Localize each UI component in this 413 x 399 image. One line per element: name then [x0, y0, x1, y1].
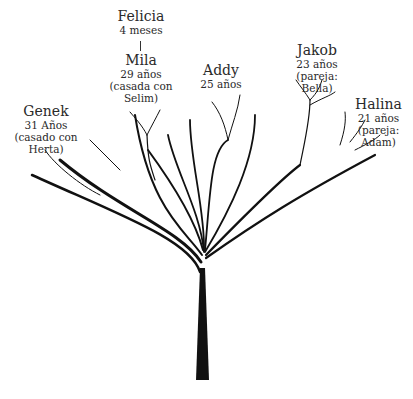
member-felicia: Felicia 4 meses [105, 8, 177, 36]
member-name: Mila [95, 52, 187, 68]
member-age: 23 años [282, 58, 352, 70]
member-addy: Addy 25 años [196, 62, 246, 90]
member-name: Halina [344, 96, 413, 112]
member-mila: Mila 29 años (casada con Selim) [95, 52, 187, 104]
member-spouse: (casado con Herta) [2, 131, 90, 155]
member-spouse: (casada con Selim) [95, 80, 187, 104]
member-partner: (pareja: Adam) [344, 124, 413, 148]
member-halina: Halina 21 años (pareja: Adam) [344, 96, 413, 148]
member-age: 31 Años [2, 119, 90, 131]
member-age: 29 años [95, 68, 187, 80]
member-age: 4 meses [105, 24, 177, 36]
felicia-mila-link [140, 41, 141, 51]
member-name: Felicia [105, 8, 177, 24]
member-name: Jakob [282, 42, 352, 58]
member-name: Addy [196, 62, 246, 78]
member-partner: (pareja: Bella) [282, 70, 352, 94]
member-age: 21 años [344, 112, 413, 124]
trunk [196, 268, 209, 380]
member-name: Genek [2, 103, 90, 119]
member-genek: Genek 31 Años (casado con Herta) [2, 103, 90, 155]
member-jakob: Jakob 23 años (pareja: Bella) [282, 42, 352, 94]
member-age: 25 años [196, 78, 246, 90]
